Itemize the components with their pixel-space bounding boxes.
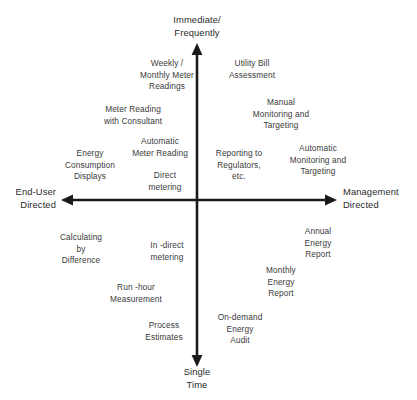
diagram-item-label: Manual Monitoring and Targeting bbox=[226, 97, 336, 132]
diagram-item-label: Utility Bill Assessment bbox=[197, 58, 307, 81]
diagram-item-label: Run -hour Measurement bbox=[81, 282, 191, 305]
diagram-item-label: On-demand Energy Audit bbox=[185, 312, 295, 347]
axis-label-bottom: Single Time bbox=[160, 366, 234, 391]
axis-label-right: Management Directed bbox=[343, 186, 415, 211]
diagram-item-label: Automatic Monitoring and Targeting bbox=[263, 143, 373, 178]
horizontal-axis-line bbox=[61, 195, 337, 206]
diagram-item-label: In -direct metering bbox=[112, 240, 222, 263]
diagram-item-label: Direct metering bbox=[110, 170, 220, 193]
diagram-item-label: Meter Reading with Consultant bbox=[78, 104, 188, 127]
axis-label-left: End-User Directed bbox=[2, 186, 56, 211]
diagram-item-label: Monthly Energy Report bbox=[226, 265, 336, 300]
axis-label-top: Immediate/ Frequently bbox=[154, 14, 240, 39]
diagram-item-label: Annual Energy Report bbox=[263, 226, 373, 261]
quadrant-diagram-canvas: Immediate/ Frequently Single Time End-Us… bbox=[0, 0, 417, 400]
